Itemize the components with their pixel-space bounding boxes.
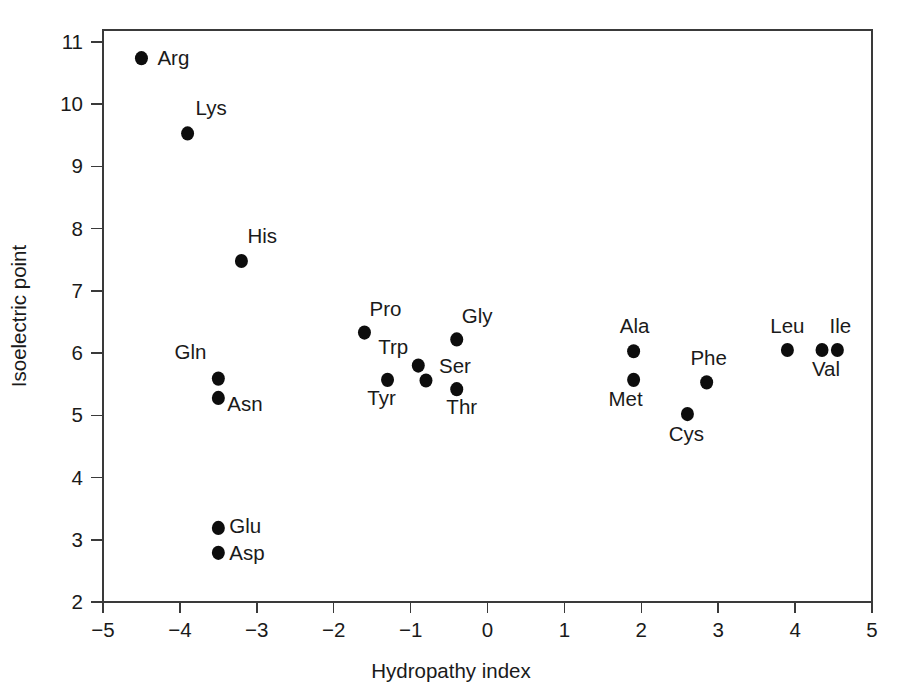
data-point-leu	[781, 343, 794, 357]
y-tick-label: 6	[72, 341, 83, 364]
x-tick-label: 1	[559, 618, 570, 641]
data-point-gln	[212, 372, 225, 386]
point-label-gly: Gly	[462, 304, 494, 327]
data-point-ile	[831, 343, 844, 357]
point-label-ile: Ile	[830, 314, 852, 337]
y-tick-label: 11	[62, 30, 83, 53]
point-label-val: Val	[812, 357, 840, 380]
point-label-trp: Trp	[378, 335, 408, 358]
scatter-plot-figure: −5−4−3−2−1012345 234567891011 ArgLysHisG…	[0, 0, 902, 698]
data-point-glu	[212, 521, 225, 535]
point-label-asn: Asn	[227, 392, 262, 415]
x-tick-label: −2	[322, 618, 345, 641]
data-point-gly	[450, 332, 463, 346]
point-label-leu: Leu	[770, 314, 804, 337]
point-label-cys: Cys	[669, 422, 704, 445]
data-point-pro	[358, 325, 371, 339]
x-tick-label: −4	[168, 618, 191, 641]
data-point-trp	[412, 358, 425, 372]
x-axis-tick-labels: −5−4−3−2−1012345	[91, 618, 877, 641]
point-label-arg: Arg	[157, 46, 189, 69]
y-axis-title: Isoelectric point	[7, 244, 30, 387]
data-point-labels: ArgLysHisGlnAsnGluAspProTyrTrpSerThrGlyA…	[157, 46, 851, 564]
point-label-pro: Pro	[369, 297, 401, 320]
x-tick-label: −5	[91, 618, 114, 641]
data-point-arg	[135, 51, 148, 65]
x-tick-label: 5	[866, 618, 877, 641]
data-point-tyr	[381, 373, 394, 387]
y-tick-label: 2	[72, 590, 83, 613]
y-tick-label: 7	[72, 279, 83, 302]
data-point-asn	[212, 391, 225, 405]
point-label-his: His	[247, 224, 277, 247]
point-label-thr: Thr	[446, 395, 477, 418]
y-tick-label: 4	[72, 466, 83, 489]
point-label-asp: Asp	[229, 541, 264, 564]
point-label-ala: Ala	[620, 314, 650, 337]
x-tick-label: 3	[712, 618, 723, 641]
x-axis-ticks	[103, 602, 872, 613]
y-tick-label: 3	[72, 528, 83, 551]
point-label-tyr: Tyr	[367, 386, 396, 409]
x-axis-title: Hydropathy index	[371, 659, 531, 682]
x-tick-label: −3	[245, 618, 268, 641]
point-label-gln: Gln	[174, 340, 206, 363]
data-point-lys	[181, 126, 194, 140]
data-point-phe	[700, 375, 713, 389]
point-label-ser: Ser	[439, 354, 471, 377]
data-point-his	[235, 254, 248, 268]
x-tick-label: −1	[399, 618, 422, 641]
y-tick-label: 9	[72, 154, 83, 177]
x-tick-label: 2	[636, 618, 647, 641]
plot-canvas: −5−4−3−2−1012345 234567891011 ArgLysHisG…	[0, 0, 902, 698]
data-point-asp	[212, 546, 225, 560]
point-label-phe: Phe	[690, 346, 726, 369]
y-tick-label: 10	[60, 92, 83, 115]
data-point-ala	[627, 344, 640, 358]
data-point-met	[627, 373, 640, 387]
y-tick-label: 5	[72, 403, 83, 426]
y-axis-tick-labels: 234567891011	[60, 30, 83, 613]
data-point-ser	[419, 373, 432, 387]
x-tick-label: 4	[789, 618, 800, 641]
data-point-cys	[681, 407, 694, 421]
data-point-thr	[450, 382, 463, 396]
x-tick-label: 0	[482, 618, 493, 641]
y-tick-label: 8	[72, 217, 83, 240]
data-point-val	[816, 343, 829, 357]
y-axis-ticks	[91, 42, 103, 602]
point-label-lys: Lys	[196, 96, 227, 119]
point-label-met: Met	[609, 387, 643, 410]
point-label-glu: Glu	[229, 514, 261, 537]
